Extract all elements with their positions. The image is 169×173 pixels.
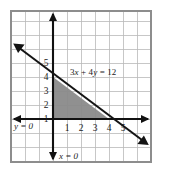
x-tick-label-5: 5 <box>118 124 128 134</box>
x-tick-label-2: 2 <box>76 124 86 134</box>
y-tick-label-2: 2 <box>41 101 51 111</box>
equation-operator-plus: + 4 <box>79 67 93 77</box>
graph-canvas <box>0 0 169 173</box>
y-axis-equation-label: y = 0 <box>14 122 33 131</box>
y-tick-label-4: 4 <box>41 73 51 83</box>
y-tick-label-5: 5 <box>41 59 51 69</box>
line-equation-label: 3x + 4y = 12 <box>70 68 116 77</box>
x-tick-label-1: 1 <box>62 124 72 134</box>
x-tick-label-4: 4 <box>104 124 114 134</box>
x-tick-label-3: 3 <box>90 124 100 134</box>
coordinate-grid-figure: 5 4 3 2 1 1 2 3 4 5 y = 0 x = 0 3x + 4y … <box>0 0 169 173</box>
y-tick-label-3: 3 <box>41 87 51 97</box>
equation-equals-value: = 12 <box>97 67 116 77</box>
x-axis-equation-label: x = 0 <box>59 152 78 161</box>
y-tick-label-1: 1 <box>41 115 51 125</box>
